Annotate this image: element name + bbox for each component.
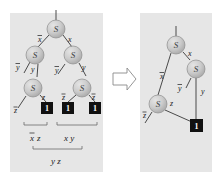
edge-label-root-right: x [67,35,72,44]
terminal-3: 1 [89,102,101,114]
bracket-right-label: x y [63,133,74,143]
edge-label-l-right: y [30,65,35,74]
right-terminal-1-label: 1 [195,122,199,131]
terminal-2: 1 [62,102,74,114]
node-root: S [47,20,65,38]
node-root-label: S [54,24,59,34]
bracket-bottom [33,146,82,149]
bracket-left [24,122,47,125]
right-node-right: S [187,60,205,78]
right-edge-label-root-left-text: x [159,72,164,81]
edge-label-r-right: y [81,63,86,72]
terminal-2-label: 1 [66,104,70,113]
right-edge-label-lf-left: z [142,111,147,120]
right-edge-rt-left [186,78,191,88]
edge-label-rr-left: z [61,93,66,102]
figure-reduction-diagram: S S S S S 1 [0,0,221,182]
right-node-left: S [149,95,167,113]
node-right-label: S [71,50,76,60]
right-edge-label-rt-right: y [200,87,205,96]
right-edge-label-rt-left-text: y [177,84,182,93]
edge-label-r-left-text: y [54,66,59,75]
terminal-3-label: 1 [93,104,97,113]
edge-rr-left [68,95,76,102]
edge-label-ll-left: z [13,106,18,115]
bracket-bottom-label: y z [50,156,61,166]
right-node-root: S [167,36,185,54]
edge-l-right [37,64,38,77]
edge-label-rr-right: z [91,93,96,102]
edge-label-root-left-text: x [37,35,42,44]
terminal-1: 1 [41,102,53,114]
bracket-right [57,122,97,125]
right-edge-label-root-right: x [187,49,192,58]
edge-label-l-left: y [15,63,20,72]
right-node-root-label: S [174,40,179,50]
right-edge-label-rt-left: y [177,84,182,93]
edge-r-left [58,64,65,74]
bracket-left-label-over: x [29,133,34,143]
right-terminal-1: 1 [190,119,203,132]
implies-arrow-icon [113,68,136,90]
edge-label-root-left: x [37,35,42,44]
edge-label-r-left: y [54,66,59,75]
right-edge-label-lf-right: z [169,99,174,108]
right-edge-lf-right [165,110,192,122]
edge-ll-left [18,96,26,108]
node-lower-right: S [73,79,91,97]
right-diagram-group: S S S 1 x x y y [142,26,205,132]
right-node-left-label: S [156,99,161,109]
bracket-left-label: x z [29,133,41,143]
left-diagram-group: S S S S S 1 [13,10,101,166]
edge-label-l-left-text: y [15,63,20,72]
terminal-1-label: 1 [45,104,49,113]
node-right: S [64,46,82,64]
edge-l-left [24,62,30,73]
bracket-left-label-plain: z [36,133,41,143]
node-lower-right-label: S [80,83,85,93]
right-edge-label-root-left: x [159,72,164,81]
right-node-right-label: S [194,64,199,74]
node-left: S [26,46,44,64]
node-left-label: S [33,50,38,60]
node-lower-left-label: S [31,83,36,93]
node-lower-left: S [24,79,42,97]
diagram-canvas: S S S S S 1 [0,0,221,182]
